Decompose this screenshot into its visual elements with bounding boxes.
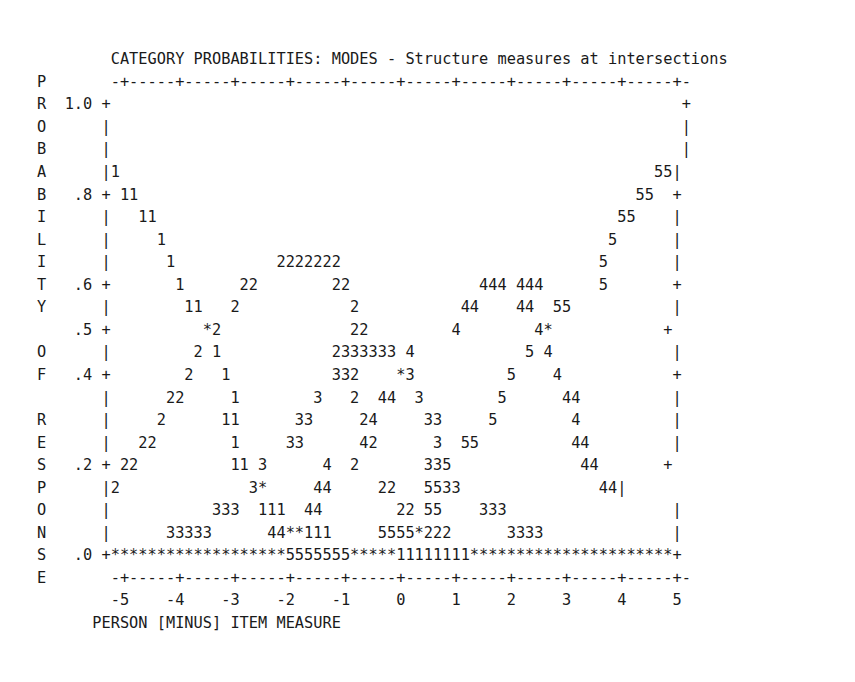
plot-row-14: | 22 1 3 2 44 3 5 44 | <box>37 387 728 410</box>
plot-row-9: T .6 + 1 22 22 444 444 5 + <box>37 274 728 297</box>
plot-row-10: Y | 11 2 2 44 44 55 | <box>37 296 728 319</box>
plot-row-22: E -+-----+-----+-----+-----+-----+-----+… <box>37 567 728 590</box>
plot-row-16: E | 22 1 33 42 3 55 44 | <box>37 432 728 455</box>
plot-row-23: -5 -4 -3 -2 -1 0 1 2 3 4 5 <box>37 589 728 612</box>
plot-row-17: S .2 + 22 11 3 4 2 335 44 + <box>37 454 728 477</box>
plot-row-13: F .4 + 2 1 332 *3 5 4 + <box>37 364 728 387</box>
plot-row-7: L | 1 5 | <box>37 229 728 252</box>
plot-row-20: N | 33333 44**111 5555*222 3333 | <box>37 522 728 545</box>
plot-row-11: .5 + *2 22 4 4* + <box>37 319 728 342</box>
plot-row-5: B .8 + 11 55 + <box>37 184 728 207</box>
plot-row-19: O | 333 111 44 22 55 333 | <box>37 499 728 522</box>
plot-title: CATEGORY PROBABILITIES: MODES - Structur… <box>37 48 728 71</box>
plot-row-12: O | 2 1 2333333 4 5 4 | <box>37 341 728 364</box>
plot-row-0: P -+-----+-----+-----+-----+-----+-----+… <box>37 71 728 94</box>
plot-row-21: S .0 +*******************5555555*****111… <box>37 544 728 567</box>
ascii-category-probability-plot: CATEGORY PROBABILITIES: MODES - Structur… <box>0 0 855 682</box>
plot-row-3: B | | <box>37 138 728 161</box>
plot-row-8: I | 1 2222222 5 | <box>37 251 728 274</box>
plot-row-1: R 1.0 + + <box>37 93 728 116</box>
plot-row-2: O | | <box>37 116 728 139</box>
x-axis-title: PERSON [MINUS] ITEM MEASURE <box>37 612 728 635</box>
plot-row-6: I | 11 55 | <box>37 206 728 229</box>
plot-row-15: R | 2 11 33 24 33 5 4 | <box>37 409 728 432</box>
plot-canvas: CATEGORY PROBABILITIES: MODES - Structur… <box>37 48 728 634</box>
plot-row-18: P |2 3* 44 22 5533 44| <box>37 477 728 500</box>
plot-row-4: A |1 55| <box>37 161 728 184</box>
